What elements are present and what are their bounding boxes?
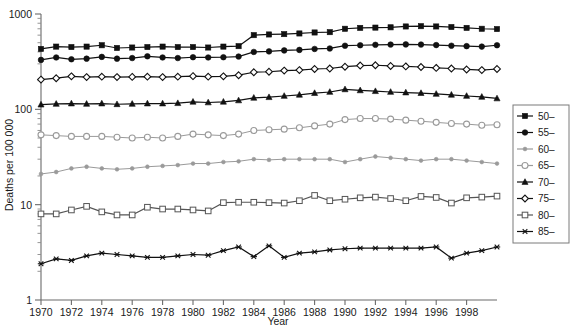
data-point-gray-open-circle (479, 122, 485, 128)
data-point-gray-dot (374, 155, 378, 159)
data-point-gray-open-circle (68, 133, 74, 139)
data-point-gray-dot (313, 157, 317, 161)
data-point-filled-square (479, 26, 484, 31)
data-point-filled-square (114, 45, 119, 50)
data-point-gray-dot (237, 159, 241, 163)
x-tick-label: 1988 (303, 306, 327, 318)
data-point-gray-open-circle (281, 126, 287, 132)
data-point-filled-circle (312, 46, 318, 52)
data-point-gray-open-circle (53, 133, 59, 139)
data-point-gray-open-circle (388, 116, 394, 122)
data-point-filled-circle (281, 48, 287, 54)
data-point-gray-open-circle (312, 123, 318, 129)
data-point-filled-square (449, 24, 454, 29)
legend-item-label: 70– (538, 177, 555, 188)
data-point-gray-dot (54, 170, 58, 174)
data-point-open-square (388, 196, 394, 202)
data-point-filled-circle (175, 55, 181, 61)
data-point-gray-open-circle (342, 117, 348, 123)
data-point-gray-open-circle (296, 125, 302, 131)
data-point-filled-circle (433, 42, 439, 48)
data-point-filled-square (494, 26, 499, 31)
data-point-gray-open-circle (464, 121, 470, 127)
data-point-gray-dot (298, 157, 302, 161)
data-point-open-square (69, 207, 75, 213)
data-point-gray-open-circle (236, 131, 242, 137)
data-point-gray-open-circle (522, 163, 528, 169)
data-point-gray-dot (39, 172, 43, 176)
data-point-gray-open-circle (175, 133, 181, 139)
data-point-filled-circle (69, 56, 75, 62)
data-point-gray-open-circle (114, 134, 120, 140)
data-point-filled-square (388, 25, 393, 30)
y-tick-label: 100 (14, 103, 32, 115)
data-point-gray-dot (252, 157, 256, 161)
data-point-filled-circle (297, 47, 303, 53)
data-point-filled-circle (53, 55, 59, 61)
legend-item-label: 80– (538, 210, 555, 221)
data-point-filled-circle (418, 42, 424, 48)
data-point-filled-circle (373, 42, 379, 48)
data-point-filled-square (358, 25, 363, 30)
data-point-gray-dot (465, 159, 469, 163)
data-point-open-square (479, 194, 485, 200)
data-point-open-square (114, 212, 120, 218)
data-point-open-square (160, 206, 166, 212)
data-point-filled-square (342, 26, 347, 31)
data-point-gray-open-circle (448, 121, 454, 127)
data-point-open-square (84, 204, 90, 210)
data-point-gray-open-circle (433, 119, 439, 125)
data-point-filled-circle (342, 43, 348, 49)
data-point-filled-circle (190, 54, 196, 60)
data-point-gray-dot (495, 162, 499, 166)
data-point-open-square (53, 211, 59, 217)
data-point-filled-square (206, 45, 211, 50)
data-point-filled-circle (160, 55, 166, 61)
data-point-gray-open-circle (327, 121, 333, 127)
data-point-open-square (342, 196, 348, 202)
data-point-filled-square (403, 24, 408, 29)
data-point-open-square (312, 193, 318, 199)
data-point-gray-dot (389, 156, 393, 160)
data-point-open-square (175, 206, 181, 212)
data-point-filled-circle (464, 43, 470, 49)
chart-figure: 1000100101 19701972197419761978198019821… (0, 0, 572, 329)
data-point-gray-open-circle (403, 117, 409, 123)
legend-item-label: 55– (538, 127, 555, 138)
data-point-open-square (433, 195, 439, 201)
data-point-gray-open-circle (99, 133, 105, 139)
data-point-open-square (327, 198, 333, 204)
data-point-open-square (357, 195, 363, 201)
data-point-filled-square (297, 31, 302, 36)
data-point-gray-open-circle (418, 118, 424, 124)
data-point-filled-circle (38, 57, 44, 63)
data-point-open-square (38, 211, 44, 217)
data-point-filled-circle (99, 54, 105, 60)
data-point-filled-square (236, 44, 241, 49)
data-point-gray-dot (191, 162, 195, 166)
data-point-gray-dot (343, 160, 347, 164)
data-point-gray-dot (328, 157, 332, 161)
data-point-filled-circle (251, 49, 257, 55)
data-point-open-square (190, 207, 196, 213)
x-tick-label: 1994 (394, 306, 418, 318)
data-point-filled-square (464, 25, 469, 30)
data-point-gray-open-circle (251, 127, 257, 133)
x-tick-label: 1980 (181, 306, 205, 318)
data-point-filled-circle (479, 44, 485, 50)
data-point-gray-dot (267, 158, 271, 162)
x-tick-label: 1984 (242, 306, 266, 318)
data-point-filled-circle (236, 54, 242, 60)
data-point-filled-square (145, 44, 150, 49)
data-point-filled-square (69, 44, 74, 49)
data-point-filled-circle (145, 53, 151, 59)
data-point-filled-square (373, 25, 378, 30)
data-point-open-square (403, 198, 409, 204)
data-point-gray-dot (282, 157, 286, 161)
data-point-gray-open-circle (160, 135, 166, 141)
data-point-gray-dot (70, 167, 74, 171)
data-point-filled-circle (449, 43, 455, 49)
data-point-gray-open-circle (129, 135, 135, 141)
data-point-open-square (297, 198, 303, 204)
data-point-gray-dot (176, 163, 180, 167)
